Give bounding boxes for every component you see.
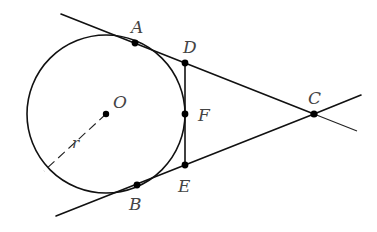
label-f: F (197, 105, 211, 125)
geometry-diagram: A D O F C E B r (0, 0, 377, 232)
point-f (182, 111, 189, 118)
tangent-line-bec-extension (314, 95, 361, 114)
label-o: O (113, 92, 127, 112)
point-b (134, 182, 141, 189)
point-a (132, 40, 139, 47)
point-d (182, 60, 189, 67)
label-c: C (308, 88, 321, 108)
point-o (103, 111, 109, 117)
point-e (182, 162, 189, 169)
label-d: D (182, 37, 197, 57)
point-c (310, 110, 317, 117)
tangent-line-adc-extension (314, 114, 357, 131)
label-b: B (128, 194, 142, 214)
label-r: r (72, 134, 80, 152)
label-a: A (129, 17, 143, 37)
label-e: E (177, 176, 191, 196)
